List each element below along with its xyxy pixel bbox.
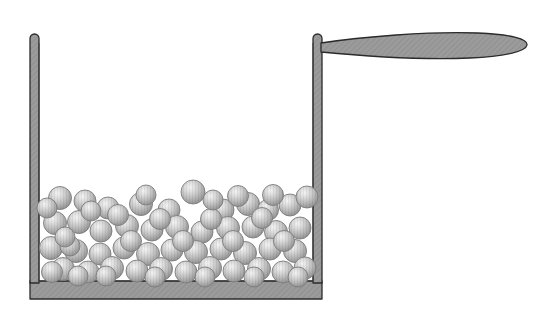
sphere-texture (68, 266, 87, 285)
sphere (181, 180, 205, 204)
sphere-texture (252, 208, 272, 228)
sphere-texture (145, 267, 164, 286)
sphere-texture (228, 186, 248, 206)
sphere-texture (244, 267, 263, 286)
sphere-texture (201, 209, 221, 229)
sphere-texture (90, 220, 111, 241)
sphere (223, 231, 244, 252)
sphere (288, 267, 308, 287)
sphere (42, 262, 63, 283)
sphere-bed (37, 180, 318, 287)
sphere (201, 209, 222, 230)
sphere (96, 266, 116, 286)
handle-leaf-shape (321, 33, 527, 59)
sphere-texture (263, 185, 283, 205)
sphere (173, 231, 194, 252)
sphere (150, 209, 171, 230)
sphere (296, 186, 318, 208)
sphere-texture (296, 186, 317, 207)
container-left-wall (30, 34, 39, 283)
sphere-texture (150, 209, 170, 229)
sphere (274, 231, 295, 252)
sphere (145, 267, 165, 287)
sphere (81, 201, 101, 221)
sphere-texture (136, 185, 155, 204)
sphere (108, 205, 129, 226)
figure-canvas (0, 0, 556, 317)
sphere (223, 260, 245, 282)
container-right-wall (313, 34, 322, 283)
sphere (136, 185, 156, 205)
sphere-texture (223, 260, 244, 281)
sphere (195, 267, 215, 287)
sphere-texture (55, 227, 74, 246)
sphere (37, 198, 57, 218)
handle (321, 33, 527, 59)
sphere-texture (181, 180, 204, 203)
sphere (175, 261, 197, 283)
sphere-texture (203, 190, 222, 209)
container-spheres-diagram (0, 0, 556, 317)
sphere-texture (96, 266, 115, 285)
sphere (252, 208, 273, 229)
sphere-texture (175, 261, 196, 282)
sphere-texture (81, 201, 100, 220)
sphere-texture (223, 231, 243, 251)
sphere (55, 227, 75, 247)
sphere (121, 231, 142, 252)
sphere-texture (121, 231, 141, 251)
sphere-texture (288, 267, 307, 286)
sphere (68, 266, 88, 286)
sphere (90, 220, 112, 242)
sphere (263, 185, 284, 206)
sphere-texture (195, 267, 214, 286)
sphere-texture (126, 260, 147, 281)
sphere-texture (173, 231, 193, 251)
sphere (203, 190, 223, 210)
sphere-texture (274, 231, 294, 251)
sphere-texture (42, 262, 62, 282)
sphere-texture (108, 205, 128, 225)
sphere (244, 267, 264, 287)
sphere-texture (37, 198, 56, 217)
sphere (228, 186, 249, 207)
